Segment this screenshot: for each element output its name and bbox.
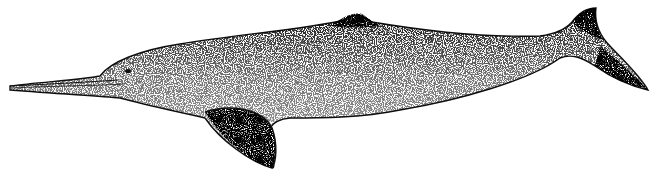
illustration-canvas — [0, 0, 653, 176]
dolphin-body — [10, 8, 648, 168]
dorsal-fin — [330, 14, 380, 28]
dolphin-illustration — [0, 0, 653, 176]
eye — [125, 69, 131, 73]
